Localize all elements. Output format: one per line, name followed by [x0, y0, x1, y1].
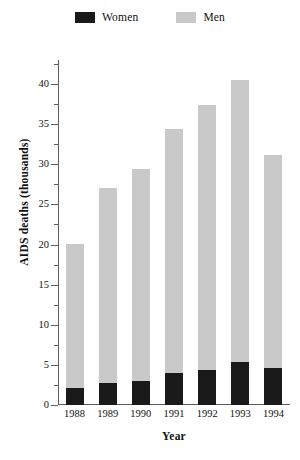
x-tick-label-1988: 1988 [64, 408, 85, 419]
bar-1992 [198, 105, 216, 405]
bar-1989 [99, 188, 117, 405]
y-tick-major [51, 325, 58, 326]
bar-1988 [66, 244, 84, 405]
y-tick-label: 30 [39, 159, 50, 169]
bar-segment-men [99, 188, 117, 383]
bar-segment-men [132, 169, 150, 381]
bar-segment-men [231, 80, 249, 362]
bar-segment-women [198, 370, 216, 405]
bar-segment-women [264, 368, 282, 405]
bar-1990 [132, 169, 150, 405]
chart-legend: Women Men [0, 12, 300, 23]
x-axis-title: Year [58, 430, 290, 442]
bar-segment-women [165, 373, 183, 405]
bar-1993 [231, 80, 249, 405]
bar-segment-men [264, 155, 282, 368]
bar-segment-men [198, 105, 216, 370]
legend-item-men: Men [176, 12, 225, 23]
bar-1994 [264, 155, 282, 405]
y-tick-major [51, 285, 58, 286]
y-tick-major [51, 204, 58, 205]
x-tick-label-1990: 1990 [130, 408, 151, 419]
y-tick-major [51, 405, 58, 406]
legend-item-women: Women [75, 12, 138, 23]
aids-deaths-stacked-bar-chart: Women Men 0510152025303540 1988198919901… [0, 0, 300, 460]
x-tick-label-1992: 1992 [197, 408, 218, 419]
bar-segment-men [165, 129, 183, 373]
men-swatch-icon [176, 12, 196, 23]
bar-segment-men [66, 244, 84, 388]
bar-1991 [165, 129, 183, 405]
y-tick-label: 20 [39, 240, 50, 250]
y-axis-title: AIDS deaths (thousands) [18, 82, 30, 322]
y-tick-label: 15 [39, 280, 50, 290]
bar-segment-women [132, 381, 150, 405]
bar-segment-women [231, 362, 249, 405]
x-tick-label-1993: 1993 [230, 408, 251, 419]
women-swatch-icon [75, 12, 95, 23]
y-tick-label: 35 [39, 119, 50, 129]
x-tick-label-1989: 1989 [97, 408, 118, 419]
x-tick-label-1991: 1991 [164, 408, 185, 419]
y-tick-major [51, 84, 58, 85]
legend-label-women: Women [102, 12, 138, 23]
legend-label-men: Men [203, 12, 225, 23]
y-tick-major [51, 124, 58, 125]
y-tick-major [51, 365, 58, 366]
y-tick-major [51, 164, 58, 165]
y-tick-label: 0 [44, 400, 49, 410]
y-tick-label: 40 [39, 79, 50, 89]
y-tick-label: 5 [44, 360, 49, 370]
bar-segment-women [66, 388, 84, 405]
bar-segment-women [99, 383, 117, 405]
y-tick-major [51, 245, 58, 246]
y-tick-label: 25 [39, 199, 50, 209]
bar-series-group [58, 60, 290, 405]
x-tick-label-1994: 1994 [263, 408, 284, 419]
y-tick-label: 10 [39, 320, 50, 330]
plot-area: 0510152025303540 19881989199019911992199… [58, 60, 290, 405]
